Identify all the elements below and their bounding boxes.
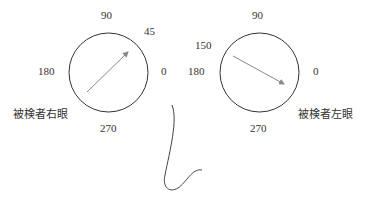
left-eye-axis-arrow [233, 56, 284, 84]
right-eye-circle [69, 33, 148, 112]
diagram-canvas [0, 0, 367, 207]
right-eye-axis-arrow [87, 52, 128, 92]
left-eye-tick-150: 150 [195, 40, 212, 51]
right-eye-tick-270: 270 [100, 123, 117, 134]
left-eye-caption: 被検者左眼 [298, 109, 353, 120]
nose-curve [164, 105, 202, 190]
right-eye-tick-180: 180 [38, 66, 55, 77]
right-eye-tick-90: 90 [101, 10, 112, 21]
left-eye-tick-90: 90 [252, 10, 263, 21]
left-eye-tick-180: 180 [188, 66, 205, 77]
left-eye-circle [220, 33, 299, 112]
right-eye-tick-45: 45 [144, 26, 155, 37]
right-eye-caption: 被検者右眼 [13, 109, 68, 120]
left-eye-tick-270: 270 [250, 123, 267, 134]
left-eye-tick-0: 0 [313, 66, 319, 77]
right-eye-tick-0: 0 [161, 66, 167, 77]
